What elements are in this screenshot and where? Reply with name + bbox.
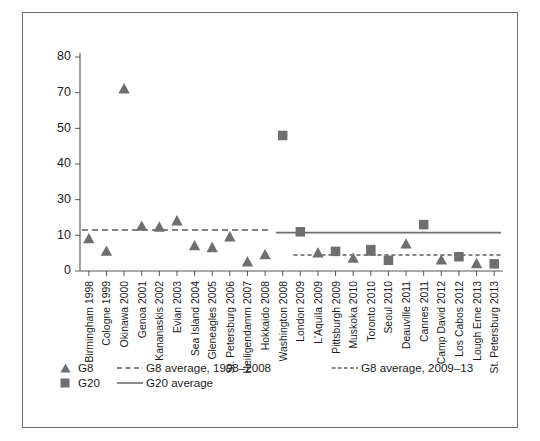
y-axis-tick-label: 0 [64,263,71,277]
dashed-line-fine-icon [332,364,358,372]
data-point-g8 [347,253,358,263]
data-point-g20 [366,245,376,255]
dashed-line-icon [117,364,143,372]
x-axis-tick-label: Los Cabos 2012 [454,281,465,357]
y-axis-tick-label: 50 [57,121,71,135]
chart-figure: 0103040507080Birmingham 1998Cologne 1999… [0,0,540,441]
data-point-g20 [384,256,394,265]
legend-label-g8-avg-2009: G8 average, 2009–13 [358,361,473,374]
x-axis-tick-label: Deauville 2011 [401,281,412,349]
data-point-g8 [83,233,94,243]
x-axis-tick-label: Cannes 2011 [419,281,430,342]
x-axis-tick-label: Lough Erne 2013 [472,281,483,361]
x-axis-tick-label: Pittsburgh 2009 [331,281,342,354]
data-point-g8 [224,231,235,241]
legend-row-1: G8 G8 average, 1998–2008 G8 average, 200… [55,360,505,375]
data-point-g8 [471,258,482,268]
x-axis-tick-label: Evian 2003 [172,281,183,333]
data-point-g8 [171,215,182,225]
legend-item-g20: G20 [55,376,117,389]
x-axis-tick-label: Gleneagles 2005 [207,281,218,360]
data-point-g8 [206,242,217,252]
data-point-g20 [296,227,306,237]
triangle-marker-icon [55,363,75,373]
legend-item-g8-avg-2009: G8 average, 2009–13 [332,361,473,374]
legend-label-g20-avg: G20 average [143,376,213,389]
y-axis-tick-label: 10 [57,228,71,242]
data-point-g8 [118,83,129,93]
data-point-g20 [278,131,288,141]
square-marker-icon [55,378,75,388]
y-axis-tick-label: 80 [57,49,71,63]
data-point-g20 [454,252,464,261]
legend-label-g8-avg-1998: G8 average, 1998–2008 [143,361,271,374]
x-axis-tick-label: Hokkaido 2008 [260,281,271,351]
legend-label-g20: G20 [75,376,100,389]
x-axis-tick-label: Okinawa 2000 [119,281,130,348]
legend-item-g20-avg: G20 average [117,376,332,389]
data-point-g20 [331,247,341,257]
legend-item-g8-avg-1998: G8 average, 1998–2008 [117,361,332,374]
data-point-g8 [400,238,411,248]
data-point-g8 [189,240,200,250]
x-axis-tick-label: Seoul 2010 [383,281,394,334]
chart-legend: G8 G8 average, 1998–2008 G8 average, 200… [55,360,505,390]
data-point-g8 [136,220,147,230]
x-axis-tick-label: L'Aquila 2009 [313,281,324,344]
y-axis-tick-label: 40 [57,156,71,170]
x-axis-tick-label: Birmingham 1998 [84,281,95,363]
x-axis-tick-label: Muskoka 2010 [348,281,359,349]
x-axis-tick-label: Camp David 2012 [436,281,447,364]
data-point-g20 [419,220,429,230]
legend-item-g8: G8 [55,361,117,374]
legend-label-g8: G8 [75,361,93,374]
x-axis-tick-label: Sea Island 2004 [190,281,201,356]
data-point-g8 [259,249,270,259]
solid-line-icon [117,379,143,387]
data-point-g20 [489,259,499,269]
x-axis-tick-label: London 2009 [295,281,306,342]
x-axis-tick-label: Kananaskis 2002 [154,281,165,361]
data-point-g8 [154,221,165,231]
data-point-g8 [101,245,112,255]
x-axis-tick-label: Toronto 2010 [366,281,377,342]
data-point-g8 [312,247,323,257]
x-axis-tick-label: Washington 2008 [278,281,289,362]
y-axis-tick-label: 70 [57,85,71,99]
data-point-g8 [436,254,447,264]
y-axis-tick-label: 30 [57,192,71,206]
x-axis-tick-label: Genoa 2001 [137,281,148,338]
x-axis-tick-label: Cologne 1999 [101,281,112,346]
data-point-g8 [242,256,253,266]
legend-row-2: G20 G20 average [55,375,505,390]
